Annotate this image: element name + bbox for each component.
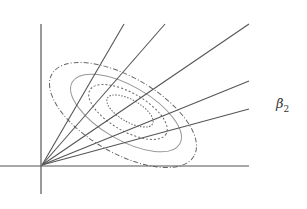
ray-5	[42, 109, 249, 165]
contour-group	[33, 41, 213, 189]
contour-3	[80, 74, 175, 151]
beta-subscript: 2	[284, 104, 290, 114]
beta-symbol: β	[276, 96, 284, 111]
contour-outer	[33, 41, 213, 189]
contour-2	[59, 59, 193, 168]
beta2-axis-label: β2	[276, 96, 289, 114]
ray-group	[42, 24, 249, 165]
ray-1	[42, 24, 124, 165]
ray-3	[42, 24, 249, 165]
contour-4	[102, 88, 158, 133]
contour-diagram	[0, 0, 307, 209]
